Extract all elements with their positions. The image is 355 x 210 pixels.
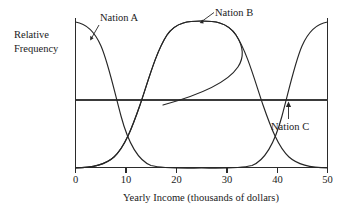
y-axis-title-line-1: Relative (14, 29, 49, 40)
series-label-nation-a: Nation A (100, 12, 139, 23)
x-tick-label-10: 10 (121, 174, 132, 185)
series-curve-nation-b (76, 21, 243, 168)
series-curve-nation-b-left (76, 21, 202, 168)
x-tick-label-30: 30 (222, 174, 233, 185)
x-tick-label-40: 40 (272, 174, 283, 185)
y-axis-title: Relative Frequency (14, 29, 59, 54)
chart-figure: 0 10 20 30 40 50 Nation A Nation B (0, 0, 355, 210)
x-tick-labels: 0 10 20 30 40 50 (73, 174, 333, 185)
series-curve-nation-b-right (202, 21, 328, 168)
x-axis-title: Yearly Income (thousands of dollars) (123, 192, 279, 204)
x-tick-label-50: 50 (322, 174, 333, 185)
series-curve-nation-a (76, 22, 328, 168)
annotation-nation-a: Nation A (90, 12, 138, 41)
y-axis-title-line-2: Frequency (14, 43, 59, 54)
axes-group (76, 18, 329, 168)
x-tick-label-20: 20 (171, 174, 182, 185)
annotation-nation-c: Nation C (271, 102, 309, 133)
x-tick-label-0: 0 (73, 174, 78, 185)
series-label-nation-c: Nation C (271, 121, 309, 132)
relative-frequency-chart: 0 10 20 30 40 50 Nation A Nation B (0, 0, 355, 210)
nation-c-leader-arrowhead (286, 102, 291, 108)
series-label-nation-b: Nation B (215, 7, 253, 18)
nation-b-leader-arrowhead (200, 20, 204, 24)
